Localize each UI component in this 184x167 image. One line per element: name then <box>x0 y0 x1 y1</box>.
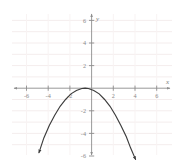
x-tick-label-6: 6 <box>155 92 158 99</box>
y-tick-label-neg4: -4 <box>81 130 86 137</box>
x-tick-label-neg6: -6 <box>24 92 29 99</box>
y-tick-label-6: 6 <box>83 17 86 24</box>
x-tick-label-neg4: -4 <box>46 92 51 99</box>
y-tick-label-neg2: -2 <box>81 107 86 114</box>
parabola-graph-figure: -6 -4 -2 2 4 6 6 4 2 -2 -4 -6 x y <box>0 0 184 167</box>
y-tick-label-2: 2 <box>83 62 86 69</box>
x-tick-label-4: 4 <box>133 92 136 99</box>
y-tick-label-4: 4 <box>83 39 86 46</box>
y-tick-label-neg6: -6 <box>81 152 86 159</box>
x-tick-label-2: 2 <box>112 92 115 99</box>
coordinate-plane-svg: -6 -4 -2 2 4 6 6 4 2 -2 -4 -6 x y <box>0 0 184 167</box>
